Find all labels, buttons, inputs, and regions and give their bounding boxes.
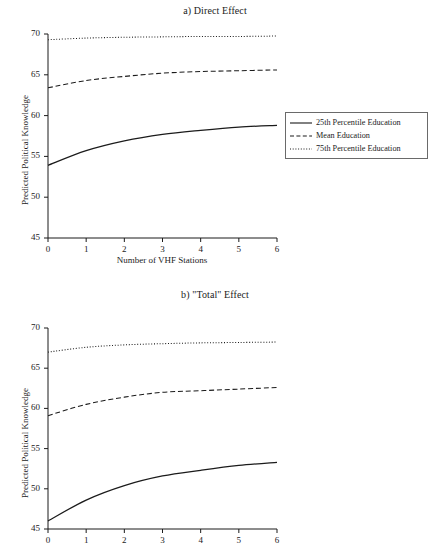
panel-b-y-axis-label: Predicted Political Knowledge [20, 388, 30, 498]
x-tick-label: 2 [117, 535, 131, 545]
series-line-2 [48, 36, 277, 40]
series-line-1 [48, 70, 277, 88]
legend-label-75th: 75th Percentile Education [316, 143, 401, 154]
series-line-0 [48, 125, 277, 165]
panel-total-effect: b) "Total" Effect 25th Percentile Educat… [0, 280, 430, 553]
series-line-2 [48, 342, 277, 352]
x-tick-label: 1 [79, 244, 93, 254]
series-line-1 [48, 388, 277, 416]
y-tick-label: 45 [22, 523, 40, 533]
legend-item-75th: 75th Percentile Education [289, 142, 423, 155]
legend-key-solid-icon [289, 117, 313, 128]
x-tick-label: 0 [41, 535, 55, 545]
x-tick-label: 2 [117, 244, 131, 254]
y-tick-label: 65 [22, 69, 40, 79]
legend-key-dashed-icon [289, 130, 313, 141]
y-tick-label: 60 [22, 110, 40, 120]
x-tick-label: 5 [232, 535, 246, 545]
legend-label-25th: 25th Percentile Education [316, 117, 401, 128]
y-tick-label: 45 [22, 232, 40, 242]
legend-item-25th: 25th Percentile Education [289, 116, 423, 129]
x-tick-label: 0 [41, 244, 55, 254]
panel-b-plot-area [0, 280, 430, 553]
panel-b-svg [0, 280, 430, 553]
legend-label-mean: Mean Education [316, 130, 370, 141]
x-tick-label: 4 [194, 244, 208, 254]
panel-direct-effect: a) Direct Effect Predicted Political Kno… [0, 0, 430, 280]
y-tick-label: 70 [22, 28, 40, 38]
y-tick-label: 50 [22, 191, 40, 201]
x-tick-label: 4 [194, 535, 208, 545]
panel-a-x-axis-label: Number of VHF Stations [42, 255, 282, 265]
x-tick-label: 6 [270, 535, 284, 545]
legend-item-mean: Mean Education [289, 129, 423, 142]
x-tick-label: 5 [232, 244, 246, 254]
x-tick-label: 3 [156, 244, 170, 254]
series-line-0 [48, 462, 277, 521]
panel-a-legend: 25th Percentile Education Mean Education… [285, 112, 428, 159]
y-tick-label: 55 [22, 150, 40, 160]
y-tick-label: 65 [22, 362, 40, 372]
x-tick-label: 3 [156, 535, 170, 545]
x-tick-label: 1 [79, 535, 93, 545]
x-tick-label: 6 [270, 244, 284, 254]
y-tick-label: 70 [22, 322, 40, 332]
legend-key-dotted-icon [289, 143, 313, 154]
